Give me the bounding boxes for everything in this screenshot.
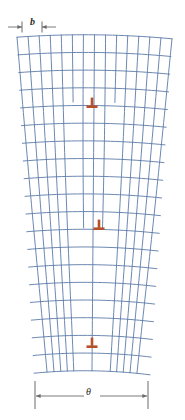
tilt-angle-label: θ: [86, 387, 91, 397]
tilt-angle-dimension: [35, 381, 148, 409]
burgers-vector-label: b: [30, 17, 35, 27]
dimension-lines: [8, 22, 148, 410]
edge-dislocation-bottom: [87, 338, 98, 348]
dislocation-symbols: [87, 98, 105, 348]
edge-dislocation-top: [87, 98, 98, 108]
lattice-diagram: [0, 0, 185, 420]
tilt-boundary-figure: b θ: [0, 0, 185, 420]
lattice-grid: [17, 35, 172, 375]
